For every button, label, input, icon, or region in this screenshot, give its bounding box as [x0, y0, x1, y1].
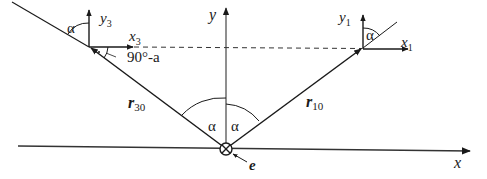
alpha-label-right-frame: α	[366, 27, 374, 43]
r30-label: r30	[128, 94, 146, 113]
coordinate-diagram: y x y3 x3 α 90°-a y1 x1 α r30 r10 α α e	[0, 0, 487, 179]
e-label: e	[249, 157, 256, 173]
r10-vector	[231, 49, 361, 145]
r30-line-extension	[12, 2, 89, 47]
complement-arc	[104, 47, 108, 58]
alpha-label-center-left: α	[208, 118, 216, 134]
complement-angle-label: 90°-a	[127, 49, 160, 65]
complement-leader	[106, 53, 116, 57]
x3-label: x3	[128, 28, 141, 47]
x1-label: x1	[400, 34, 413, 53]
complement-dot	[98, 51, 100, 53]
diagram-svg: y x y3 x3 α 90°-a y1 x1 α r30 r10 α α e	[0, 0, 487, 179]
r10-label: r10	[306, 93, 324, 112]
alpha-label-left-frame: α	[67, 20, 75, 36]
dashed-connector	[134, 47, 362, 49]
alpha-label-center-right: α	[231, 118, 239, 134]
alpha-arc-center-left	[182, 98, 226, 115]
e-pointer	[233, 154, 247, 162]
y1-label: y1	[337, 9, 351, 28]
origin-cross-circle-icon	[220, 143, 232, 155]
y3-label: y3	[98, 10, 112, 29]
x-axis	[18, 146, 470, 151]
x-axis-label: x	[453, 154, 461, 171]
y-axis-label: y	[207, 6, 217, 24]
